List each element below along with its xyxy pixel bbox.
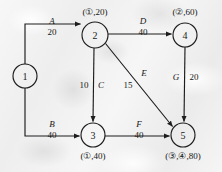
edge-E-line	[106, 44, 173, 127]
node-3[interactable]: 3 (①,40)	[80, 123, 105, 161]
node-4-label: 4	[183, 30, 188, 41]
edge-B-weight: 40	[48, 130, 58, 140]
edge-D: D 40	[108, 16, 172, 37]
node-4[interactable]: 4 (②,60)	[172, 7, 197, 47]
node-1[interactable]: 1	[13, 64, 37, 88]
edge-B-label: B	[49, 119, 55, 129]
edge-G: G 20	[173, 47, 199, 122]
node-3-annotation: (①,40)	[80, 151, 105, 161]
node-5-label: 5	[181, 130, 186, 141]
edge-A-weight: 20	[48, 27, 58, 37]
node-4-annotation: (②,60)	[172, 7, 197, 17]
node-5[interactable]: 5 (③,④,80)	[165, 123, 201, 161]
edge-E: E 15	[106, 44, 173, 127]
edge-C: C 10	[80, 48, 105, 122]
edge-C-line	[93, 48, 94, 122]
node-2-annotation: (①,20)	[82, 7, 107, 17]
edge-G-label: G	[173, 72, 180, 82]
edge-D-label: D	[139, 16, 147, 26]
network-diagram: A 20 B 40 C 10 D 40 E 15	[0, 0, 222, 172]
edge-G-weight: 20	[190, 72, 200, 82]
edge-E-label: E	[140, 68, 147, 78]
edge-G-line	[184, 47, 185, 122]
diagram-page: A 20 B 40 C 10 D 40 E 15	[0, 0, 222, 172]
edge-A-label: A	[48, 16, 55, 26]
node-5-annotation: (③,④,80)	[165, 151, 201, 161]
edge-C-weight: 10	[80, 80, 90, 90]
node-2-label: 2	[93, 30, 98, 41]
edge-F: F 40	[105, 119, 170, 140]
edge-F-label: F	[135, 119, 142, 129]
edge-F-weight: 40	[135, 130, 145, 140]
node-3-label: 3	[91, 130, 96, 141]
node-1-label: 1	[23, 71, 28, 82]
edge-A: A 20	[25, 16, 81, 64]
edge-D-weight: 40	[139, 27, 149, 37]
edge-B: B 40	[25, 88, 80, 140]
edge-E-weight: 15	[124, 80, 134, 90]
node-2[interactable]: 2 (①,20)	[82, 7, 108, 48]
edge-C-label: C	[98, 80, 105, 90]
